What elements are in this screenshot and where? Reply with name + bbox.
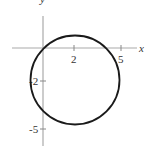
x-tick-label-2: 2 — [71, 53, 77, 65]
x-axis-label: x — [138, 42, 144, 54]
x-tick-label-5: 5 — [118, 53, 124, 65]
circle-curve — [31, 36, 120, 125]
y-axis-label: y — [39, 0, 45, 5]
y-tick-label-neg5: -5 — [29, 123, 39, 135]
coordinate-plane: 2 5 -2 -5 x y — [0, 0, 158, 158]
